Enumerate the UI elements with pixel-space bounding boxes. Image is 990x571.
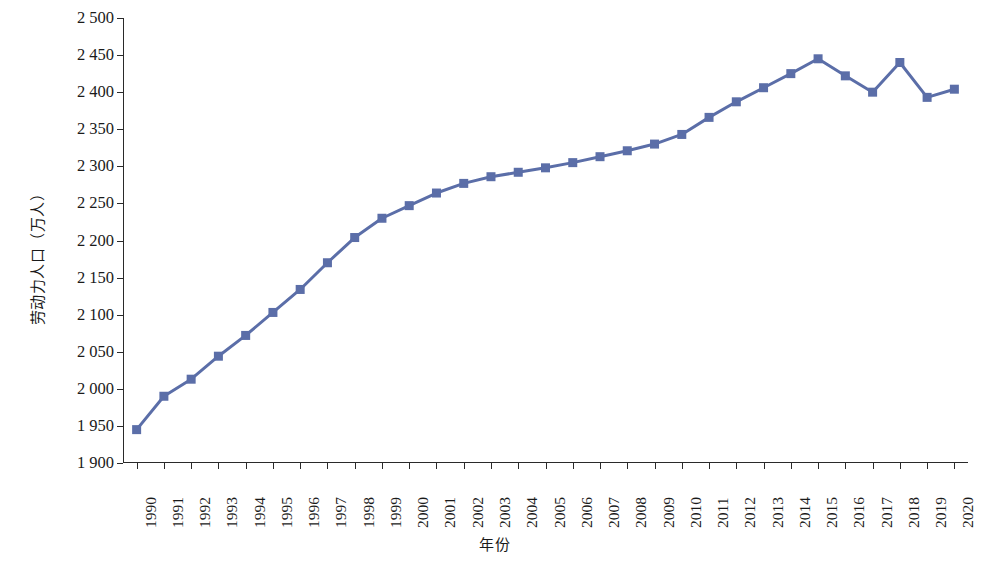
- data-point-marker: [650, 140, 659, 149]
- x-axis-tick: [655, 463, 656, 469]
- chart-container: 劳动力人口（万人） 2 5002 4502 4002 3502 3002 250…: [0, 0, 990, 571]
- y-axis-tick-label: 1 900: [0, 455, 114, 472]
- data-point-marker: [623, 146, 632, 155]
- data-point-marker: [405, 201, 414, 210]
- x-axis-tick-label: 2006: [579, 497, 595, 528]
- x-axis-tick-label: 2020: [960, 497, 976, 528]
- x-axis-tick: [709, 463, 710, 469]
- x-axis-tick-label: 1994: [252, 497, 268, 528]
- x-axis-tick: [191, 463, 192, 469]
- x-axis-tick-label: 2008: [633, 497, 649, 528]
- x-axis-tick-label: 1993: [224, 497, 240, 528]
- data-point-marker: [923, 93, 932, 102]
- data-point-marker: [432, 189, 441, 198]
- data-point-marker: [350, 233, 359, 242]
- y-axis-tick-label: 2 350: [0, 121, 114, 138]
- y-axis-tick-label: 2 250: [0, 195, 114, 212]
- x-axis-tick: [845, 463, 846, 469]
- x-axis-tick-label: 1996: [306, 497, 322, 528]
- y-axis-tick-label: 2 100: [0, 307, 114, 324]
- y-axis-tick-label: 2 300: [0, 158, 114, 175]
- data-point-marker: [868, 88, 877, 97]
- data-point-marker: [459, 179, 468, 188]
- x-axis-tick-label: 2000: [415, 497, 431, 528]
- data-point-marker: [323, 258, 332, 267]
- x-axis-title: 年份: [0, 533, 990, 554]
- data-point-marker: [514, 168, 523, 177]
- x-axis-tick: [137, 463, 138, 469]
- x-axis-tick-label: 2003: [497, 497, 513, 528]
- x-axis-tick: [682, 463, 683, 469]
- x-axis-tick: [273, 463, 274, 469]
- x-axis-tick-label: 2005: [552, 497, 568, 528]
- data-point-marker: [241, 331, 250, 340]
- data-point-marker: [950, 85, 959, 94]
- data-point-marker: [132, 425, 141, 434]
- data-point-marker: [705, 113, 714, 122]
- data-point-marker: [159, 392, 168, 401]
- y-axis-tick-label: 2 200: [0, 233, 114, 250]
- data-point-marker: [759, 83, 768, 92]
- data-point-marker: [486, 172, 495, 181]
- data-point-marker: [895, 58, 904, 67]
- x-axis-tick: [382, 463, 383, 469]
- y-axis-tick-label: 2 500: [0, 10, 114, 27]
- x-axis-tick-label: 2018: [906, 497, 922, 528]
- x-axis-tick-label: 1992: [197, 497, 213, 528]
- plot-area: [123, 18, 968, 463]
- data-point-marker: [677, 130, 686, 139]
- x-axis-tick: [518, 463, 519, 469]
- x-axis-tick: [464, 463, 465, 469]
- x-axis-tick: [300, 463, 301, 469]
- data-point-marker: [214, 352, 223, 361]
- x-axis-tick: [873, 463, 874, 469]
- x-axis-tick: [436, 463, 437, 469]
- x-axis-tick: [818, 463, 819, 469]
- data-point-marker: [268, 308, 277, 317]
- x-axis-tick-label: 2015: [824, 497, 840, 528]
- x-axis-tick: [791, 463, 792, 469]
- x-axis-tick-label: 2010: [688, 497, 704, 528]
- x-axis-tick-label: 2007: [606, 497, 622, 528]
- y-axis-tick-label: 2 150: [0, 270, 114, 287]
- data-point-marker: [377, 214, 386, 223]
- x-axis-tick-label: 1997: [333, 497, 349, 528]
- x-axis-tick-label: 2013: [770, 497, 786, 528]
- x-axis-tick-label: 2002: [470, 497, 486, 528]
- x-axis-tick: [573, 463, 574, 469]
- x-axis-tick: [900, 463, 901, 469]
- x-axis-tick: [764, 463, 765, 469]
- data-point-marker: [841, 71, 850, 80]
- x-axis-tick: [546, 463, 547, 469]
- x-axis-tick: [954, 463, 955, 469]
- x-axis-tick: [355, 463, 356, 469]
- x-axis-tick-label: 2017: [879, 497, 895, 528]
- x-axis-tick: [736, 463, 737, 469]
- data-point-marker: [187, 375, 196, 384]
- data-point-marker: [596, 152, 605, 161]
- x-axis-tick-label: 2001: [442, 497, 458, 528]
- x-axis-tick-label: 2016: [851, 497, 867, 528]
- x-axis-tick-label: 2012: [742, 497, 758, 528]
- data-point-marker: [568, 158, 577, 167]
- y-axis-tick-label: 2 000: [0, 381, 114, 398]
- x-axis-tick: [164, 463, 165, 469]
- x-axis-tick-label: 2004: [524, 497, 540, 528]
- x-axis-tick: [600, 463, 601, 469]
- x-axis-tick: [327, 463, 328, 469]
- x-axis-tick: [246, 463, 247, 469]
- x-axis-tick: [927, 463, 928, 469]
- data-point-marker: [296, 285, 305, 294]
- x-axis-tick: [409, 463, 410, 469]
- x-axis-tick-label: 1995: [279, 497, 295, 528]
- x-axis-tick-label: 2011: [715, 498, 731, 528]
- x-axis-tick-label: 2019: [933, 497, 949, 528]
- data-point-marker: [814, 54, 823, 63]
- data-point-marker: [786, 69, 795, 78]
- y-axis-tick-label: 2 050: [0, 344, 114, 361]
- y-axis-tick-label: 2 450: [0, 47, 114, 64]
- x-axis-tick-label: 1999: [388, 497, 404, 528]
- y-axis-tick-label: 1 950: [0, 418, 114, 435]
- data-point-marker: [732, 97, 741, 106]
- y-axis-tick-label: 2 400: [0, 84, 114, 101]
